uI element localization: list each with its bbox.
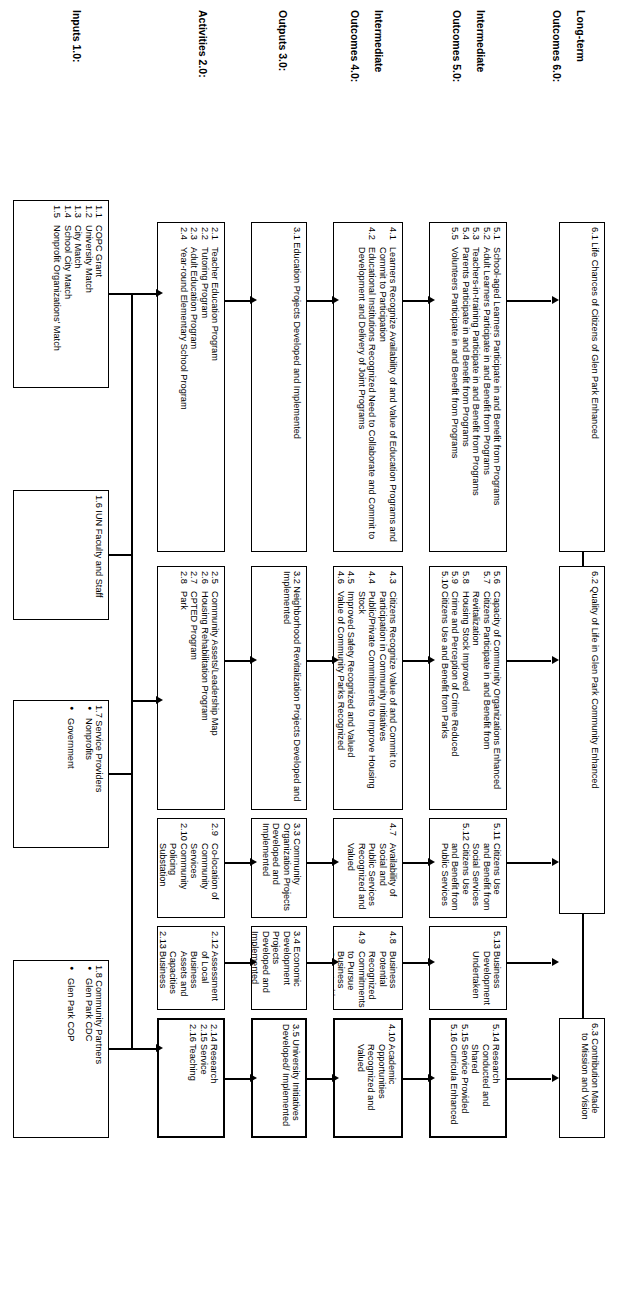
box-4-7-list: 4.7Availability of Social and Public Ser… [346, 823, 398, 913]
box-4-10-list: 4.10Academic Opportunities Recognized an… [355, 1024, 397, 1132]
list-item: 5.11Citizens Use and Benefit from Social… [471, 823, 502, 913]
list-item: Glen Park CDC [83, 965, 93, 1133]
row-label-line1: Outputs 3.0: [277, 10, 289, 71]
arrow-up-41-51 [428, 296, 435, 304]
connector-48-513 [403, 962, 429, 964]
arrow-up-214-35 [250, 1074, 257, 1082]
box-2-12-2-13-list: 2.12Assessment of Local Business Assets … [158, 931, 220, 1005]
arrow-up-inputs-25 [156, 696, 163, 704]
row-label-line2: Outcomes 5.0: [451, 10, 463, 82]
list-item: 4.7Availability of Social and Public Ser… [346, 823, 398, 913]
box-2-9-2-11[interactable]: 2.9Co-location of Community Services 2.1… [157, 818, 225, 918]
connector-11-riser [109, 293, 133, 295]
box-5-11-5-12[interactable]: 5.11Citizens Use and Benefit from Social… [429, 818, 507, 918]
box-3-2[interactable]: 3.2 Neighborhood Revitalization Projects… [251, 566, 307, 810]
arrow-up-43-56 [428, 656, 435, 664]
list-item: 2.10Community Policing Substation [158, 823, 189, 913]
row-label-inputs: Inputs 1.0: [71, 10, 95, 63]
connector-32-43 [307, 660, 333, 662]
connector-spine-21 [133, 293, 157, 295]
list-item: 2.11City Government Liaison [157, 823, 158, 913]
connector-34-48 [307, 962, 333, 964]
box-3-5-title: 3.5 University Initiatives Developed/ Im… [280, 1024, 301, 1132]
arrow-up-inputs-21 [156, 289, 163, 297]
box-1-1-1-5[interactable]: 1.1COPC Grant 1.2University Match 1.3Cit… [13, 200, 109, 388]
box-5-1-5-5[interactable]: 5.1School-aged Learners Participate in a… [429, 222, 507, 552]
list-item: 2.3Adult Education Program [189, 227, 199, 547]
list-item: 1.4School City Match [62, 205, 72, 383]
box-6-3-subtitle: to Mission and Vision [579, 1023, 589, 1133]
box-5-13[interactable]: 5.13Business Development Undertaken [429, 926, 507, 1010]
box-1-6[interactable]: 1.6 IUN Faculty and Staff [13, 490, 109, 620]
box-4-1-4-2-list: 4.1Learners Recognize Availability of an… [356, 227, 398, 547]
box-2-1-2-4[interactable]: 2.1Teacher Education Program 2.2Tutoring… [157, 222, 225, 552]
list-item: 5.10Citizens Use and Benefit from Parks [440, 571, 450, 805]
box-4-7[interactable]: 4.7Availability of Social and Public Ser… [333, 818, 403, 918]
list-item: 5.4Parents Participate in and Benefit fr… [460, 227, 470, 547]
list-item: 5.14Research Conducted and Shared [470, 1024, 501, 1132]
box-3-5[interactable]: 3.5 University Initiatives Developed/ Im… [251, 1018, 307, 1138]
box-1-8-title: 1.8 Community Partners [94, 965, 104, 1133]
list-item: 2.9Co-location of Community Services [189, 823, 220, 913]
box-6-2[interactable]: 6.2 Quality of Life in Glen Park Communi… [559, 566, 605, 914]
row-label-intermediate-4: Intermediate Outcomes 4.0: [349, 10, 397, 82]
box-2-14-2-16[interactable]: 2.14Research 2.15Service 2.16Teaching [157, 1018, 225, 1138]
box-4-8-4-9-list: 4.8Business Potential Recognized 4.9Comm… [333, 931, 398, 1005]
arrow-up-34-48 [332, 958, 339, 966]
box-3-1-title: 3.1 Education Projects Developed and Imp… [292, 227, 302, 547]
connector-410-514 [403, 1078, 429, 1080]
box-2-5-2-8[interactable]: 2.5Community Assets/Leadership Map 2.6Ho… [157, 566, 225, 810]
list-item: 2.14Research [209, 1024, 219, 1132]
list-item: 2.12Assessment of Local Business Assets … [168, 931, 220, 1005]
arrow-up-47-511 [428, 858, 435, 866]
box-2-12-2-13[interactable]: 2.12Assessment of Local Business Assets … [157, 926, 225, 1010]
list-item: 5.7Citizens Participate in and Benefit f… [471, 571, 492, 805]
list-item: 5.13Business Development Undertaken [471, 931, 502, 1005]
list-item: 5.16Curricula Enhanced [449, 1024, 459, 1132]
connector-18-riser [109, 1048, 133, 1050]
box-3-2-title: 3.2 Neighborhood Revitalization Projects… [281, 571, 302, 805]
row-label-line1: Intermediate [475, 10, 487, 72]
connector-spine-214 [133, 1048, 157, 1050]
box-1-7[interactable]: 1.7 Service Providers Nonprofits Governm… [13, 700, 109, 848]
connector-spine-25 [133, 700, 157, 702]
list-item: 1.3City Match [73, 205, 83, 383]
box-4-3-4-6[interactable]: 4.3Citizens Recognize Value of and Commi… [333, 566, 403, 810]
list-item: 5.2Adult Learners Participate in and Ben… [481, 227, 491, 547]
connector-43-56 [403, 660, 429, 662]
box-5-6-5-10[interactable]: 5.6Capacity of Community Organizations E… [429, 566, 507, 810]
box-4-8-4-9[interactable]: 4.8Business Potential Recognized 4.9Comm… [333, 926, 403, 1010]
box-5-6-5-10-list: 5.6Capacity of Community Organizations E… [440, 571, 502, 805]
box-3-4[interactable]: 3.4 Economic Development Projects Develo… [251, 926, 307, 1010]
list-item: 4.9Commitments to Pursue Business Opport… [333, 931, 367, 1005]
arrow-up-212-34 [250, 958, 257, 966]
box-5-14-5-16[interactable]: 5.14Research Conducted and Shared 5.15Se… [429, 1018, 507, 1138]
list-item: 2.8Park [178, 571, 188, 805]
box-5-13-list: 5.13Business Development Undertaken [471, 931, 502, 1005]
box-4-10[interactable]: 4.10Academic Opportunities Recognized an… [333, 1018, 403, 1138]
list-item: 2.7CPTED Program [189, 571, 199, 805]
box-6-3[interactable]: 6.3 Contribution Made to Mission and Vis… [559, 1018, 605, 1138]
connector-212-34 [225, 962, 251, 964]
arrow-up-513-62 [552, 958, 559, 966]
box-4-1-4-2[interactable]: 4.1Learners Recognize Availability of an… [333, 222, 403, 552]
box-2-5-2-8-list: 2.5Community Assets/Leadership Map 2.6Ho… [178, 571, 220, 805]
connector-56-62 [507, 660, 551, 662]
box-3-3[interactable]: 3.3 Community Organization Projects Deve… [251, 818, 307, 918]
box-2-1-2-4-list: 2.1Teacher Education Program 2.2Tutoring… [178, 227, 220, 547]
connector-33-47 [307, 862, 333, 864]
arrow-up-25-32 [250, 656, 257, 664]
row-label-line2: Outcomes 6.0: [551, 10, 563, 82]
arrow-up-51-61 [552, 296, 559, 304]
list-item: 4.8Business Potential Recognized [367, 931, 398, 1005]
box-1-8[interactable]: 1.8 Community Partners Glen Park CDC Gle… [13, 960, 109, 1138]
box-6-1-title: 6.1 Life Chances of Citizens of Glen Par… [590, 227, 600, 547]
box-3-1[interactable]: 3.1 Education Projects Developed and Imp… [251, 222, 307, 552]
connector-29-33 [225, 862, 251, 864]
box-6-1[interactable]: 6.1 Life Chances of Citizens of Glen Par… [559, 222, 605, 552]
list-item: 1.2University Match [83, 205, 93, 383]
row-label-line1: Activities 2.0: [197, 10, 209, 78]
connector-62-63 [582, 914, 584, 1018]
list-item: 2.1Teacher Education Program [210, 227, 220, 547]
connector-47-511 [403, 862, 429, 864]
